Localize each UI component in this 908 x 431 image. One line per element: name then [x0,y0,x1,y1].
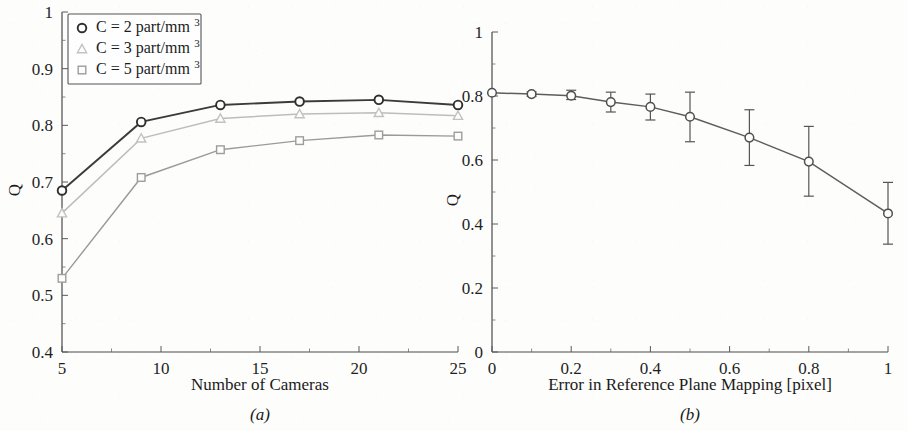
data-point [646,103,655,112]
y-tick-label: 0.4 [32,343,54,362]
panel-b-x-axis-title: Error in Reference Plane Mapping [pixel] [548,375,832,394]
y-tick-label: 0.8 [32,116,53,135]
data-point [607,98,616,107]
data-point [296,137,304,145]
panel-a-x-axis-title: Number of Cameras [191,375,329,394]
legend-exponent: 3 [194,58,200,70]
data-point [137,174,145,182]
panel-b-series-group [488,89,893,245]
legend-label: C = 2 part/mm [96,18,190,36]
panel-b-plot: 00.20.40.60.81 00.20.40.60.81 Error in R… [440,0,908,431]
legend-marker-circle [78,24,87,33]
data-point [488,89,497,98]
y-tick-label: 1 [475,23,484,42]
y-tick-label: 0.8 [462,87,483,106]
y-tick-label: 0.9 [32,60,53,79]
data-point [686,113,695,122]
panel-a-x-ticks: 510152025 [58,346,467,378]
panel-a-legend: C = 2 part/mm3C = 3 part/mm3C = 5 part/m… [68,14,201,84]
legend-exponent: 3 [194,37,200,49]
y-tick-label: 0.4 [462,215,484,234]
data-point [884,209,893,218]
panel-a: 0.40.50.60.70.80.91 510152025 C = 2 part… [0,0,468,431]
x-tick-label: 20 [351,359,368,378]
legend-exponent: 3 [194,16,200,28]
data-point [295,97,304,106]
data-point [745,133,754,142]
y-tick-label: 0.2 [462,279,483,298]
panel-b-y-axis-title: Q [443,194,462,206]
x-tick-label: 1 [884,359,893,378]
panel-b-caption: (b) [680,405,700,424]
y-tick-label: 0 [475,343,484,362]
x-tick-label: 10 [153,359,170,378]
series-2 [57,108,462,217]
legend-label: C = 3 part/mm [96,39,190,57]
y-tick-label: 0.5 [32,286,53,305]
x-tick-label: 5 [58,359,67,378]
panel-b-x-ticks: 00.20.40.60.81 [488,346,893,378]
panel-a-series-group [57,96,462,283]
legend-marker-square [78,66,86,74]
data-point [805,157,814,166]
panel-a-caption: (a) [250,405,270,424]
panel-a-plot: 0.40.50.60.70.80.91 510152025 C = 2 part… [0,0,468,431]
series-3 [58,131,462,282]
figure-container: 0.40.50.60.70.80.91 510152025 C = 2 part… [0,0,908,431]
data-point [58,275,66,283]
legend-label: C = 5 part/mm [96,60,190,78]
data-point [567,91,576,100]
data-point [375,96,384,105]
panel-b-axes [492,32,888,352]
y-tick-label: 0.7 [32,173,54,192]
data-point [527,90,536,99]
data-point [217,146,225,154]
data-point [375,131,383,139]
panel-b: 00.20.40.60.81 00.20.40.60.81 Error in R… [440,0,908,431]
series-line [62,113,458,213]
y-tick-label: 1 [45,3,54,22]
y-tick-label: 0.6 [32,230,53,249]
data-point [137,118,146,127]
y-tick-label: 0.6 [462,151,483,170]
data-point [58,186,67,195]
panel-a-y-axis-title: Q [5,184,24,196]
data-point [216,101,225,110]
x-tick-label: 0 [488,359,497,378]
